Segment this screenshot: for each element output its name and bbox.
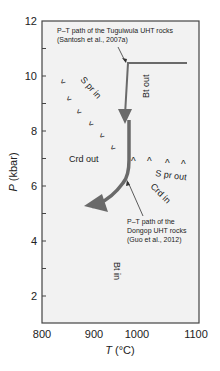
bt-in-label: Bt in xyxy=(112,262,122,280)
y-axis-label: P (kbar) xyxy=(7,152,19,191)
y-tick-2: 2 xyxy=(31,290,37,302)
y-tick-10: 10 xyxy=(25,70,37,82)
y-tick-8: 8 xyxy=(31,125,37,137)
x-axis-label: T (°C) xyxy=(105,344,134,356)
y-tick-4: 4 xyxy=(31,235,37,247)
svg-text:^: ^ xyxy=(131,156,136,167)
x-axis-labels: 800 900 1000 1100 xyxy=(33,328,208,340)
svg-text:^: ^ xyxy=(147,156,152,167)
crd-out-label: Crd out xyxy=(69,154,99,164)
y-tick-6: 6 xyxy=(31,180,37,192)
svg-text:^: ^ xyxy=(181,159,186,170)
x-tick-1000: 1000 xyxy=(125,328,149,340)
x-tick-1100: 1100 xyxy=(184,328,208,340)
svg-text:^: ^ xyxy=(165,158,170,169)
pt-diagram: 12 10 8 6 4 2 P (kbar) 800 900 1000 1100… xyxy=(0,0,220,371)
x-tick-800: 800 xyxy=(33,328,51,340)
bt-out-label: Bt out xyxy=(141,74,151,98)
y-tick-12: 12 xyxy=(25,15,37,27)
x-tick-900: 900 xyxy=(85,328,103,340)
y-axis-labels: 12 10 8 6 4 2 xyxy=(25,15,37,302)
